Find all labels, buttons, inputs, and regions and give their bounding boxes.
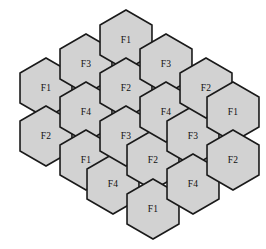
hex-grid-canvas: F1F2F3F4F1F4F1F2F3F2F1F3F4F3F4F2F1F2 — [0, 0, 266, 249]
hexagonal-cell-grid: F1F2F3F4F1F4F1F2F3F2F1F3F4F3F4F2F1F2 — [0, 0, 266, 249]
